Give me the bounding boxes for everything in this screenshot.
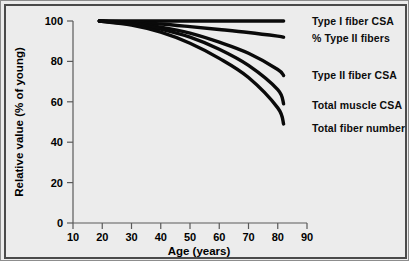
line-chart: 0 20 40 60 80 100 10 20 30 40 50 60 [1,1,409,261]
x-tick-label: 70 [242,231,254,243]
x-tick-label: 40 [155,231,167,243]
series-label-pct-type-ii-fibers: % Type II fibers [312,32,390,44]
x-tick-label: 10 [67,231,79,243]
x-tick-label: 80 [272,231,284,243]
series-label-type-ii-fiber-csa: Type II fiber CSA [312,69,397,81]
x-tick-label: 50 [184,231,196,243]
y-tick-label: 20 [51,177,63,189]
y-tick-label: 80 [51,55,63,67]
y-tick-label: 100 [45,15,63,27]
series-label-total-fiber-number: Total fiber number [312,122,405,134]
x-axis-ticks [73,223,307,229]
y-tick-label: 0 [57,217,63,229]
series-labels: Type I fiber CSA % Type II fibers Type I… [312,15,405,134]
figure-container: 0 20 40 60 80 100 10 20 30 40 50 60 [0,0,409,261]
x-tick-label: 30 [125,231,137,243]
series-label-total-muscle-csa: Total muscle CSA [312,99,402,111]
data-curves [99,21,283,124]
y-tick-label: 40 [51,136,63,148]
y-tick-label: 60 [51,96,63,108]
x-tick-label: 60 [213,231,225,243]
curve-type-ii-fiber-csa [99,21,283,76]
x-axis-title: Age (years) [168,245,231,257]
x-tick-label: 90 [301,231,313,243]
x-axis-tick-labels: 10 20 30 40 50 60 70 80 90 [67,231,313,243]
y-axis-ticks [67,21,73,223]
y-axis-title: Relative value (% of young) [13,47,25,197]
series-label-type-i-fiber-csa: Type I fiber CSA [312,15,394,27]
y-axis-tick-labels: 0 20 40 60 80 100 [45,15,63,229]
x-tick-label: 20 [96,231,108,243]
